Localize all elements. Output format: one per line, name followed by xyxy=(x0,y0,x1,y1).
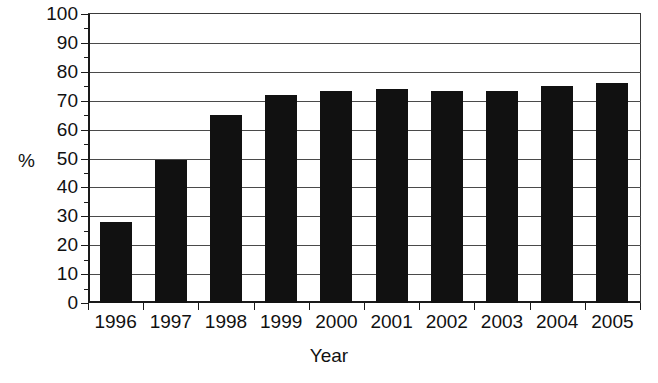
x-tick xyxy=(585,303,586,310)
x-tick-label: 1998 xyxy=(196,311,256,333)
x-tick-label: 2004 xyxy=(527,311,587,333)
y-tick-label: 60 xyxy=(32,120,78,139)
y-tick-label: 0 xyxy=(32,293,78,312)
y-tick-label: 80 xyxy=(32,62,78,81)
y-tick-label: 10 xyxy=(32,264,78,283)
x-tick xyxy=(364,303,365,310)
bar xyxy=(155,160,187,303)
bar xyxy=(486,91,518,303)
bar xyxy=(596,83,628,303)
x-tick-label: 2005 xyxy=(582,311,642,333)
bar-chart: % 0102030405060708090100 199619971998199… xyxy=(0,0,658,383)
x-tick xyxy=(309,303,310,310)
x-tick xyxy=(474,303,475,310)
x-axis-label: Year xyxy=(0,345,658,367)
bar xyxy=(431,91,463,303)
y-tick-label: 100 xyxy=(32,4,78,23)
y-tick-label: 70 xyxy=(32,91,78,110)
x-tick-label: 2002 xyxy=(417,311,477,333)
x-tick-label: 2001 xyxy=(362,311,422,333)
y-tick-label: 30 xyxy=(32,206,78,225)
x-tick xyxy=(419,303,420,310)
x-tick xyxy=(640,303,641,310)
x-tick xyxy=(198,303,199,310)
x-tick xyxy=(88,303,89,310)
bar xyxy=(210,115,242,303)
x-tick-label: 1999 xyxy=(251,311,311,333)
x-tick-label: 1997 xyxy=(141,311,201,333)
y-tick-label: 50 xyxy=(32,149,78,168)
x-tick-label: 2000 xyxy=(306,311,366,333)
x-tick xyxy=(254,303,255,310)
x-tick-label: 2003 xyxy=(472,311,532,333)
x-tick xyxy=(143,303,144,310)
bar xyxy=(541,86,573,303)
x-tick-label: 1996 xyxy=(86,311,146,333)
x-tick xyxy=(530,303,531,310)
y-tick-label: 40 xyxy=(32,177,78,196)
y-tick-label: 90 xyxy=(32,33,78,52)
y-tick-label: 20 xyxy=(32,235,78,254)
bar xyxy=(265,95,297,303)
bar xyxy=(320,91,352,303)
bar xyxy=(100,222,132,303)
bar xyxy=(376,89,408,303)
